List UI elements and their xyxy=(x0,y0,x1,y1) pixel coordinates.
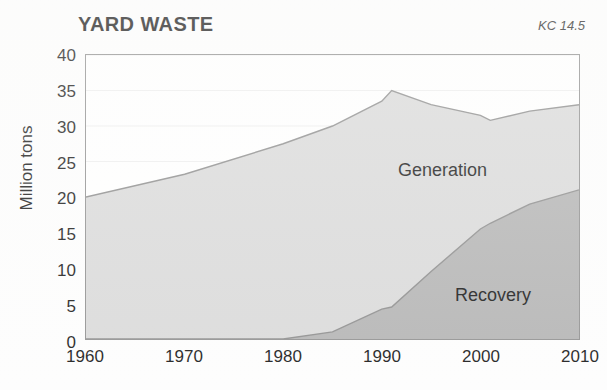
y-tick-30: 30 xyxy=(30,119,76,136)
y-tick-5: 5 xyxy=(30,298,76,315)
y-tick-35: 35 xyxy=(30,83,76,100)
y-tick-40: 40 xyxy=(30,47,76,64)
x-tick-1970: 1970 xyxy=(144,348,224,365)
x-tick-1990: 1990 xyxy=(342,348,422,365)
y-tick-15: 15 xyxy=(30,226,76,243)
series-label-generation: Generation xyxy=(398,160,487,181)
x-tick-2000: 2000 xyxy=(441,348,521,365)
y-tick-25: 25 xyxy=(30,155,76,172)
x-tick-2010: 2010 xyxy=(540,348,607,365)
x-tick-1960: 1960 xyxy=(45,348,125,365)
x-tick-1980: 1980 xyxy=(243,348,323,365)
series-label-recovery: Recovery xyxy=(455,285,531,306)
chart-figure: YARD WASTE KC 14.5 Million tons 40 35 30… xyxy=(0,0,607,390)
y-tick-20: 20 xyxy=(30,190,76,207)
y-tick-10: 10 xyxy=(30,262,76,279)
